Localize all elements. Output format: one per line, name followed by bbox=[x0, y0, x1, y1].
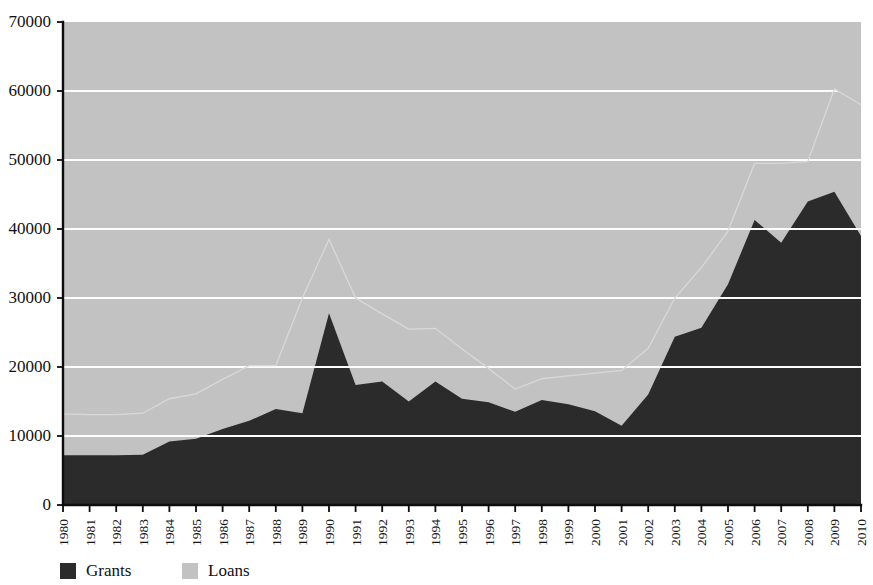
x-tick-label: 1987 bbox=[242, 519, 257, 546]
x-tick-label: 2006 bbox=[748, 519, 763, 546]
x-tick-label: 2004 bbox=[694, 519, 709, 546]
x-tick-label: 2003 bbox=[668, 519, 683, 546]
x-tick-label: 1996 bbox=[482, 519, 497, 546]
chart-legend: GrantsLoans bbox=[60, 561, 250, 580]
chart-canvas: 010000200003000040000500006000070000 198… bbox=[0, 0, 873, 585]
x-tick-label: 2005 bbox=[721, 519, 736, 546]
y-tick-label: 20000 bbox=[9, 357, 52, 376]
x-tick-label: 1984 bbox=[162, 519, 177, 546]
x-tick-label: 1994 bbox=[428, 519, 443, 546]
x-axis-ticks: 1980198119821983198419851986198719881989… bbox=[56, 505, 869, 546]
x-tick-label: 2009 bbox=[827, 519, 842, 546]
x-tick-label: 2002 bbox=[641, 519, 656, 546]
x-tick-label: 1990 bbox=[322, 519, 337, 546]
x-tick-label: 1991 bbox=[349, 519, 364, 546]
x-tick-label: 2000 bbox=[588, 519, 603, 546]
legend-label-grants: Grants bbox=[86, 561, 131, 580]
x-tick-label: 1993 bbox=[402, 519, 417, 546]
x-tick-label: 1992 bbox=[375, 519, 390, 546]
x-tick-label: 1995 bbox=[455, 519, 470, 546]
legend-swatch-loans bbox=[182, 563, 198, 579]
stacked-area-chart: 010000200003000040000500006000070000 198… bbox=[0, 0, 873, 585]
legend-swatch-grants bbox=[60, 563, 76, 579]
x-tick-label: 1989 bbox=[295, 519, 310, 546]
x-tick-label: 2010 bbox=[854, 519, 869, 546]
x-tick-label: 1983 bbox=[136, 519, 151, 546]
y-tick-label: 10000 bbox=[9, 426, 52, 445]
x-tick-label: 1985 bbox=[189, 519, 204, 546]
y-tick-label: 70000 bbox=[9, 12, 52, 31]
y-tick-label: 60000 bbox=[9, 81, 52, 100]
y-tick-label: 0 bbox=[43, 495, 52, 514]
x-tick-label: 1986 bbox=[216, 519, 231, 546]
plot-series-areas bbox=[63, 22, 861, 505]
y-tick-label: 50000 bbox=[9, 150, 52, 169]
x-tick-label: 1982 bbox=[109, 519, 124, 546]
x-tick-label: 2008 bbox=[801, 519, 816, 546]
y-tick-label: 40000 bbox=[9, 219, 52, 238]
x-tick-label: 1997 bbox=[508, 519, 523, 546]
y-axis-ticks: 010000200003000040000500006000070000 bbox=[9, 12, 64, 514]
y-tick-label: 30000 bbox=[9, 288, 52, 307]
x-tick-label: 2001 bbox=[615, 519, 630, 546]
x-tick-label: 1999 bbox=[561, 519, 576, 546]
legend-label-loans: Loans bbox=[208, 561, 250, 580]
x-tick-label: 2007 bbox=[774, 519, 789, 546]
x-tick-label: 1980 bbox=[56, 519, 71, 546]
x-tick-label: 1981 bbox=[83, 519, 98, 546]
x-tick-label: 1988 bbox=[269, 519, 284, 546]
x-tick-label: 1998 bbox=[535, 519, 550, 546]
